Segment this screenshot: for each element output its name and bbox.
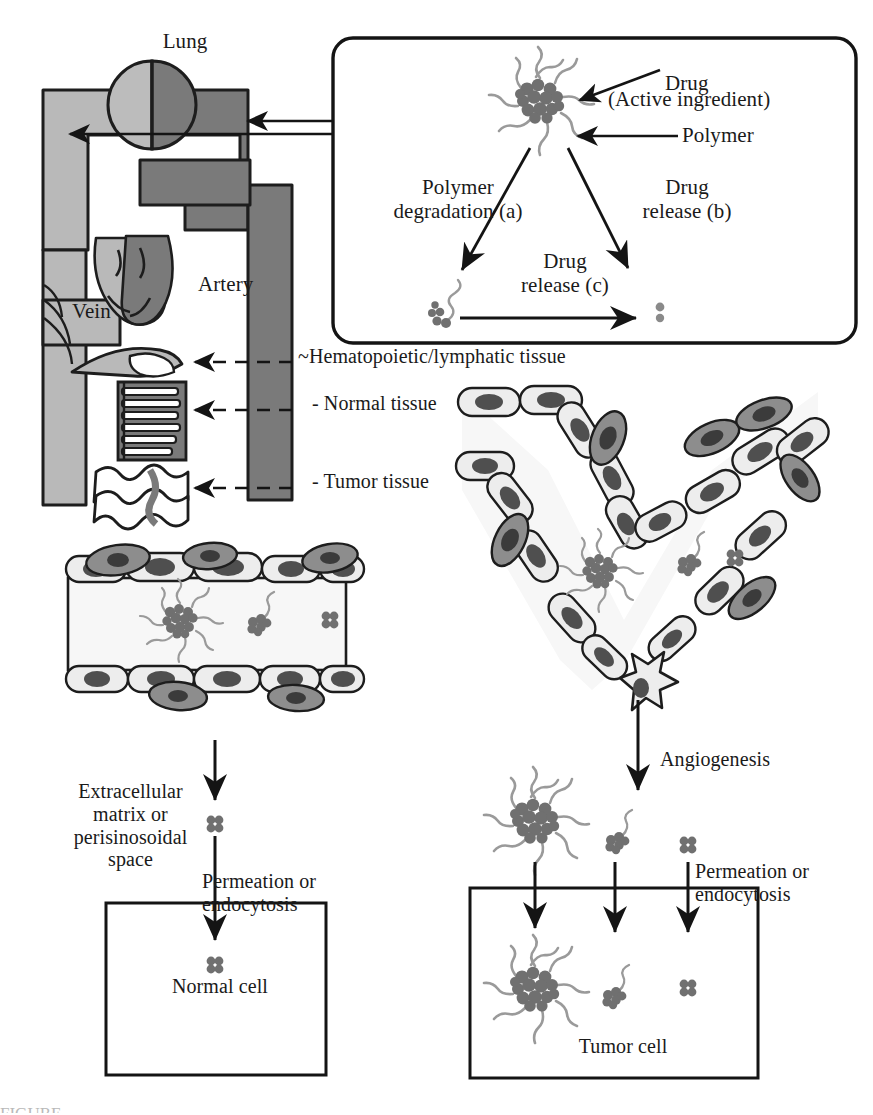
- figure-caption-fragment: FIGURE: [0, 1104, 260, 1113]
- tumor-uptake-arrows: [535, 862, 688, 932]
- active-ingredient-label: (Active ingredient): [608, 88, 838, 112]
- normal-cell-label: Normal cell: [140, 975, 300, 998]
- drug-release-c-label: Drug release (c): [490, 250, 640, 298]
- free-drug-in-tumor-cell-icon: [680, 980, 697, 997]
- extracellular-matrix-label: Extracellular matrix or perisinosoidal s…: [48, 780, 213, 871]
- lung-icon: [108, 60, 196, 150]
- normal-vessel-panel: [66, 539, 364, 713]
- polymer-degradation-label: Polymer degradation (a): [368, 176, 548, 224]
- free-drug-outside-tumor-cell-icon: [680, 837, 697, 854]
- angiogenesis-label: Angiogenesis: [660, 748, 830, 771]
- sprouting-endothelial-cell-icon: [620, 652, 678, 710]
- lung-label: Lung: [110, 30, 260, 54]
- figure-root: Lung Vein Artery ~Hematopoietic/lymphati…: [0, 0, 873, 1115]
- tumor-tissue-label: - Tumor tissue: [312, 470, 522, 493]
- normal-tissue-label: - Normal tissue: [312, 392, 532, 415]
- artery-label: Artery: [198, 273, 298, 297]
- micelle-outside-tumor-cell-icon: [484, 767, 589, 875]
- normal-tissue-icon: [118, 382, 186, 460]
- vein-label: Vein: [72, 300, 152, 324]
- tumor-vessel-panel: [456, 386, 834, 710]
- free-drug-in-tumor-vessel-icon: [727, 550, 744, 567]
- hematopoietic-tissue-label: ~Hematopoietic/lymphatic tissue: [298, 345, 628, 368]
- drug-release-b-label: Drug release (b): [612, 176, 762, 224]
- free-drug-in-normal-cell-icon: [207, 957, 224, 974]
- diagram-canvas: [0, 0, 873, 1115]
- conjugate-in-tumor-cell-icon: [602, 965, 629, 1009]
- permeation-right-label: Permeation or endocytosis: [695, 860, 870, 906]
- polymer-label: Polymer: [682, 124, 812, 148]
- tumor-tissue-icon: [94, 465, 188, 529]
- tumor-cell-label: Tumor cell: [548, 1035, 698, 1058]
- conjugate-outside-tumor-cell-icon: [605, 810, 632, 854]
- micelle-in-tumor-cell-icon: [484, 935, 589, 1043]
- tumor-endothelium-right: [630, 412, 834, 666]
- permeation-left-label: Permeation or endocytosis: [202, 870, 377, 916]
- hematopoietic-tissue-icon: [72, 348, 182, 376]
